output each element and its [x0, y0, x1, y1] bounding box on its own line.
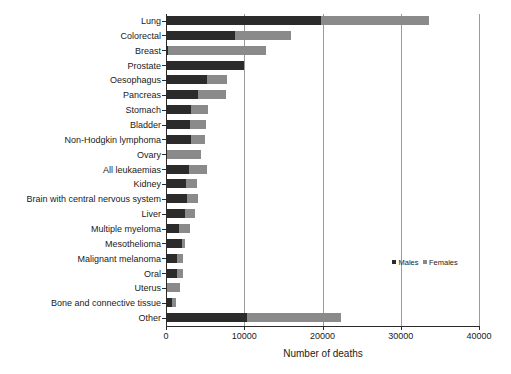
stacked-bar — [167, 90, 226, 99]
stacked-bar — [167, 298, 176, 307]
bar-segment-females — [167, 150, 201, 159]
category-label: Prostate — [6, 59, 166, 74]
bar-segment-females — [185, 209, 195, 218]
bar-segment-females — [321, 16, 429, 25]
bar-row: Liver — [0, 207, 511, 222]
legend-swatch-males-icon — [392, 260, 396, 264]
x-tick-30000 — [401, 326, 402, 330]
bar-row: All leukaemias — [0, 163, 511, 178]
bar-row: Breast — [0, 44, 511, 59]
bar-row: Mesothelioma — [0, 237, 511, 252]
y-tick — [162, 125, 166, 126]
category-label: Pancreas — [6, 88, 166, 103]
bar-segment-males — [167, 105, 191, 114]
category-label: Other — [6, 311, 166, 326]
bar-row: Prostate — [0, 59, 511, 74]
x-tick-40000 — [479, 326, 480, 330]
x-tick-label-0: 0 — [136, 331, 196, 341]
bar-segment-males — [167, 209, 185, 218]
category-label: Mesothelioma — [6, 237, 166, 252]
stacked-bar — [167, 165, 207, 174]
bar-segment-males — [167, 254, 177, 263]
category-label: Oesophagus — [6, 73, 166, 88]
bar-segment-females — [247, 313, 342, 322]
bar-segment-females — [191, 135, 204, 144]
category-label: Lung — [6, 14, 166, 29]
category-label: Brain with central nervous system — [6, 192, 166, 207]
y-tick — [162, 169, 166, 170]
y-tick — [162, 35, 166, 36]
stacked-bar — [167, 31, 291, 40]
category-label: Multiple myeloma — [6, 222, 166, 237]
y-tick — [162, 214, 166, 215]
category-label: Non-Hodgkin lymphoma — [6, 133, 166, 148]
y-tick — [162, 65, 166, 66]
bar-row: Pancreas — [0, 88, 511, 103]
category-label: Oral — [6, 267, 166, 282]
bar-row: Bladder — [0, 118, 511, 133]
bar-row: Kidney — [0, 177, 511, 192]
bar-segment-females — [167, 283, 180, 292]
bar-row: Stomach — [0, 103, 511, 118]
y-tick — [162, 184, 166, 185]
bar-row: Brain with central nervous system — [0, 192, 511, 207]
y-tick — [162, 303, 166, 304]
bar-segment-males — [167, 120, 190, 129]
stacked-bar — [167, 46, 266, 55]
stacked-bar — [167, 61, 244, 70]
legend-swatch-females-icon — [423, 260, 427, 264]
stacked-bar — [167, 105, 208, 114]
bar-segment-females — [172, 298, 176, 307]
bar-segment-females — [191, 105, 208, 114]
bar-row: Multiple myeloma — [0, 222, 511, 237]
y-tick — [162, 21, 166, 22]
y-tick — [162, 288, 166, 289]
y-tick — [162, 80, 166, 81]
x-tick-10000 — [244, 326, 245, 330]
bar-segment-females — [186, 179, 197, 188]
y-tick — [162, 154, 166, 155]
bar-row: Lung — [0, 14, 511, 29]
category-label: Stomach — [6, 103, 166, 118]
stacked-bar — [167, 224, 190, 233]
bar-segment-females — [179, 224, 190, 233]
bar-segment-females — [187, 194, 198, 203]
stacked-bar — [167, 269, 183, 278]
bar-segment-males — [167, 61, 244, 70]
stacked-bar — [167, 239, 185, 248]
category-label: Bladder — [6, 118, 166, 133]
x-tick-label-40000: 40000 — [449, 331, 509, 341]
bar-segment-females — [189, 165, 207, 174]
legend-item-females: Females — [423, 258, 458, 267]
y-tick — [162, 273, 166, 274]
stacked-bar — [167, 209, 195, 218]
category-label: Breast — [6, 44, 166, 59]
bar-segment-females — [235, 31, 291, 40]
chart-title — [0, 0, 511, 9]
bar-segment-males — [167, 224, 179, 233]
chart-container: 010000200003000040000 LungColorectalBrea… — [0, 0, 511, 374]
bar-segment-females — [198, 90, 226, 99]
stacked-bar — [167, 194, 198, 203]
bar-segment-males — [167, 165, 189, 174]
stacked-bar — [167, 16, 429, 25]
category-label: Liver — [6, 207, 166, 222]
x-axis-title: Number of deaths — [166, 348, 480, 359]
stacked-bar — [167, 135, 205, 144]
legend-label-males: Males — [399, 258, 419, 267]
bar-row: Uterus — [0, 281, 511, 296]
category-label: Malignant melanoma — [6, 252, 166, 267]
bar-segment-males — [167, 269, 177, 278]
bar-row: Non-Hodgkin lymphoma — [0, 133, 511, 148]
bar-segment-males — [167, 313, 247, 322]
bar-segment-males — [167, 135, 191, 144]
bar-segment-males — [167, 179, 186, 188]
bar-segment-males — [167, 75, 207, 84]
bar-segment-females — [177, 254, 183, 263]
stacked-bar — [167, 120, 206, 129]
x-tick-label-10000: 10000 — [214, 331, 274, 341]
category-label: Ovary — [6, 148, 166, 163]
y-tick — [162, 139, 166, 140]
y-tick — [162, 243, 166, 244]
bar-segment-females — [190, 120, 206, 129]
